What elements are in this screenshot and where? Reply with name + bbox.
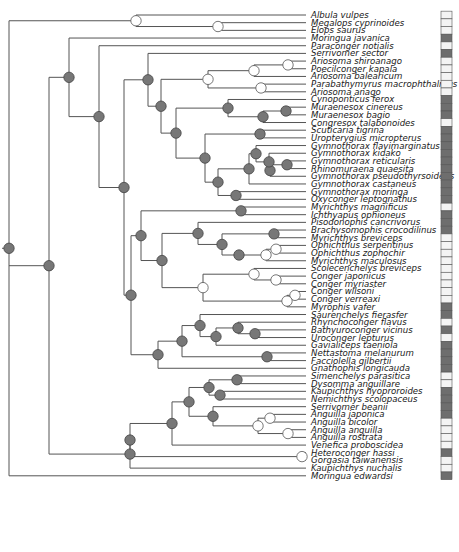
trait-cell-dark (441, 111, 452, 119)
trait-cell-light (441, 288, 452, 296)
ancestral-node-dark (223, 103, 233, 113)
trait-cell-light (441, 203, 452, 211)
trait-cell-light (441, 119, 452, 127)
ancestral-node-dark (136, 230, 146, 240)
trait-cell-dark (441, 126, 452, 134)
trait-cell-dark (441, 142, 452, 150)
taxon-labels: Albula vulpesMegalops cyprinoidesElops s… (310, 10, 458, 481)
ancestral-node-dark (126, 290, 136, 300)
ancestral-node-dark (195, 320, 205, 330)
trait-cell-dark (441, 149, 452, 157)
trait-cell-light (441, 457, 452, 465)
trait-cell-dark (441, 326, 452, 334)
trait-cell-light (441, 11, 452, 19)
ancestral-node-dark (4, 243, 14, 253)
trait-cell-light (441, 380, 452, 388)
trait-cell-light (441, 464, 452, 472)
trait-cell-dark (441, 349, 452, 357)
trait-cell-light (441, 418, 452, 426)
trait-cell-dark (441, 50, 452, 58)
ancestral-node-dark (282, 160, 292, 170)
ancestral-node-dark (232, 375, 242, 385)
ancestral-node-dark (244, 164, 254, 174)
ancestral-node-dark (171, 128, 181, 138)
ancestral-node-dark (250, 329, 260, 339)
ancestral-node-dark (234, 250, 244, 260)
trait-cell-light (441, 265, 452, 273)
trait-cell-light (441, 295, 452, 303)
ancestral-node-light (282, 296, 292, 306)
taxon-label: Moringua edwardsi (311, 471, 393, 481)
trait-cell-light (441, 441, 452, 449)
ancestral-node-dark (125, 449, 135, 459)
ancestral-node-dark (119, 182, 129, 192)
trait-cell-light (441, 242, 452, 250)
ancestral-node-light (249, 65, 259, 75)
ancestral-node-dark (281, 106, 291, 116)
trait-cell-light (441, 234, 452, 242)
ancestral-node-dark (208, 411, 218, 421)
trait-cell-light (441, 334, 452, 342)
ancestral-node-dark (94, 111, 104, 121)
trait-cell-light (441, 318, 452, 326)
ancestral-node-dark (233, 323, 243, 333)
ancestral-node-dark (217, 239, 227, 249)
ancestral-node-dark (251, 149, 261, 159)
ancestral-node-dark (167, 418, 177, 428)
ancestral-node-light (265, 413, 275, 423)
trait-cell-light (441, 73, 452, 81)
ancestral-node-dark (269, 229, 279, 239)
trait-cell-dark (441, 180, 452, 188)
ancestral-node-light (256, 83, 266, 93)
tree-canvas: Albula vulpesMegalops cyprinoidesElops s… (0, 0, 459, 552)
ancestral-node-dark (236, 206, 246, 216)
trait-cell-light (441, 27, 452, 35)
ancestral-node-dark (143, 75, 153, 85)
trait-cell-light (441, 19, 452, 27)
ancestral-node-light (213, 21, 223, 31)
ancestral-node-dark (264, 157, 274, 167)
trait-cell-dark (441, 103, 452, 111)
trait-cell-light (441, 57, 452, 65)
trait-cell-dark (441, 211, 452, 219)
trait-cell-dark (441, 188, 452, 196)
ancestral-node-dark (211, 331, 221, 341)
ancestral-node-light (253, 421, 263, 431)
ancestral-node-dark (204, 382, 214, 392)
ancestral-node-dark (258, 112, 268, 122)
ancestral-node-dark (200, 153, 210, 163)
trait-cell-light (441, 426, 452, 434)
trait-cell-dark (441, 357, 452, 365)
trait-cell-light (441, 434, 452, 442)
trait-cell-dark (441, 395, 452, 403)
ancestral-node-light (271, 244, 281, 254)
trait-cell-light (441, 80, 452, 88)
trait-cell-dark (441, 303, 452, 311)
trait-cell-dark (441, 411, 452, 419)
trait-cell-dark (441, 403, 452, 411)
ancestral-node-dark (255, 129, 265, 139)
trait-cell-dark (441, 226, 452, 234)
trait-cell-dark (441, 472, 452, 480)
trait-cell-light (441, 257, 452, 265)
ancestral-node-dark (157, 255, 167, 265)
trait-cell-light (441, 42, 452, 50)
trait-cell-dark (441, 34, 452, 42)
phylogenetic-tree-figure: Albula vulpesMegalops cyprinoidesElops s… (0, 0, 459, 552)
ancestral-node-dark (262, 352, 272, 362)
trait-cell-dark (441, 96, 452, 104)
ancestral-node-dark (213, 177, 223, 187)
trait-cell-dark (441, 195, 452, 203)
trait-cell-light (441, 249, 452, 257)
trait-cell-dark (441, 172, 452, 180)
trait-cell-dark (441, 165, 452, 173)
ancestral-node-light (249, 269, 259, 279)
trait-cell-light (441, 65, 452, 73)
ancestral-node-dark (125, 435, 135, 445)
ancestral-node-light (261, 250, 271, 260)
trait-cell-light (441, 280, 452, 288)
ancestral-node-light (297, 451, 307, 461)
ancestral-node-light (198, 282, 208, 292)
trait-cell-dark (441, 311, 452, 319)
ancestral-node-dark (193, 228, 203, 238)
